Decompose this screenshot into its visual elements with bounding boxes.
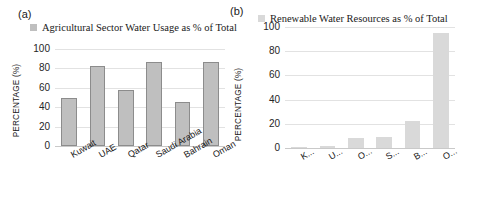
x-label-slot: S... — [370, 151, 398, 191]
bar-qatar — [118, 90, 134, 146]
x-label-slot: Bahrain — [168, 149, 196, 199]
bar-slot — [285, 27, 313, 148]
panel-b-x-labels: K...U...O...S...B...O... — [285, 151, 455, 191]
x-label-slot: K... — [285, 151, 313, 191]
panel-b-bars — [285, 27, 455, 148]
x-label-slot: Saudi Arabia — [140, 149, 168, 199]
bar-b — [405, 121, 421, 148]
bar-slot — [342, 27, 370, 148]
y-tick-40: 40 — [18, 101, 50, 112]
bar-slot — [83, 49, 111, 146]
bar-s — [376, 137, 392, 148]
x-label-slot: B... — [398, 151, 426, 191]
y-tick-40: 40 — [248, 94, 280, 105]
bar-o — [348, 138, 364, 148]
y-tick-100: 100 — [248, 21, 280, 32]
y-tick-60: 60 — [248, 69, 280, 80]
y-tick-80: 80 — [18, 62, 50, 73]
panel-b: (b) Renewable Water Resources as % of To… — [240, 0, 480, 214]
y-tick-60: 60 — [18, 82, 50, 93]
x-label-slot: UAE — [83, 149, 111, 199]
x-label-slot: U... — [313, 151, 341, 191]
bar-slot — [427, 27, 455, 148]
y-tick-100: 100 — [18, 43, 50, 54]
bar-slot — [112, 49, 140, 146]
x-label-slot: O... — [427, 151, 455, 191]
x-label-slot: Qatar — [112, 149, 140, 199]
x-label-slot: O... — [342, 151, 370, 191]
panel-a-plot-area: 100 80 60 40 20 0 KuwaitUAEQatarSaudi Ar… — [0, 0, 240, 214]
bar-slot — [140, 49, 168, 146]
y-tick-20: 20 — [248, 118, 280, 129]
bar-o — [433, 33, 449, 148]
bar-slot — [370, 27, 398, 148]
bar-slot — [313, 27, 341, 148]
x-label-slot: Kuwait — [55, 149, 83, 199]
bar-uae — [90, 66, 106, 147]
bar-saudiarabia — [146, 62, 162, 146]
bar-slot — [55, 49, 83, 146]
y-tick-80: 80 — [248, 45, 280, 56]
y-tick-0: 0 — [248, 142, 280, 153]
bar-k — [291, 147, 307, 148]
figure-two-panel-bar-charts: (a) Agricultural Sector Water Usage as %… — [0, 0, 480, 214]
y-tick-20: 20 — [18, 121, 50, 132]
bar-oman — [203, 62, 219, 146]
bar-u — [320, 146, 336, 148]
bar-kuwait — [61, 98, 77, 146]
bar-slot — [398, 27, 426, 148]
panel-b-plot-area: 100 80 60 40 20 0 K...U...O...S...B...O.… — [240, 0, 480, 214]
x-label-slot: Oman — [197, 149, 225, 199]
panel-a-x-labels: KuwaitUAEQatarSaudi ArabiaBahrainOman — [55, 149, 225, 199]
panel-a: (a) Agricultural Sector Water Usage as %… — [0, 0, 240, 214]
y-tick-0: 0 — [18, 140, 50, 151]
